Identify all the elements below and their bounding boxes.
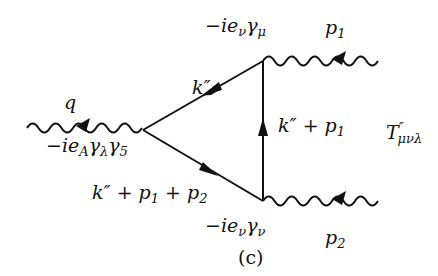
label-axial-vertex: −ieAγλγ5 — [46, 136, 128, 158]
label-q: q — [64, 93, 76, 112]
label-amplitude-T: T″μνλ — [386, 121, 422, 145]
photon-line-p2 — [263, 197, 378, 206]
photon-line-p1 — [263, 57, 378, 66]
label-mu-vertex: −ieνγμ — [205, 16, 266, 38]
arrow-q — [76, 118, 90, 132]
label-p1: p1 — [325, 18, 345, 40]
label-p2: p2 — [325, 228, 345, 250]
label-nu-vertex: −ieνγν — [205, 216, 265, 238]
label-k-plus-p1: k″ + p1 — [278, 116, 345, 138]
label-k-plus-p1-plus-p2: k″ + p1 + p2 — [92, 183, 208, 205]
figure-caption: (c) — [238, 248, 263, 267]
arrow-k-p1-head — [258, 118, 268, 136]
feynman-diagram: q −ieAγλγ5 −ieνγμ −ieνγν p1 p2 k″ k″ + p… — [0, 0, 438, 276]
label-k: k″ — [192, 78, 211, 97]
